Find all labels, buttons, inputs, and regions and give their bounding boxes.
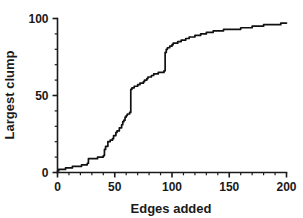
x-tick-label: 200 — [276, 180, 296, 194]
x-axis-title: Edges added — [131, 201, 212, 216]
x-tick-label: 0 — [54, 180, 61, 194]
y-tick-label: 50 — [35, 89, 49, 103]
y-axis-tick-labels: 050100 — [28, 12, 48, 180]
axis-lines — [58, 19, 287, 173]
x-tick-label: 100 — [162, 180, 182, 194]
figure-container: 050100150200 050100 Edges added Largest … — [0, 0, 303, 218]
y-tick-label: 100 — [28, 12, 48, 26]
data-series-line — [58, 23, 287, 171]
x-tick-label: 150 — [219, 180, 239, 194]
x-axis-tick-labels: 050100150200 — [54, 180, 297, 194]
y-tick-label: 0 — [42, 166, 49, 180]
percolation-line-chart: 050100150200 050100 Edges added Largest … — [0, 0, 303, 218]
x-tick-label: 50 — [108, 180, 122, 194]
y-axis-title: Largest clump — [2, 51, 17, 140]
